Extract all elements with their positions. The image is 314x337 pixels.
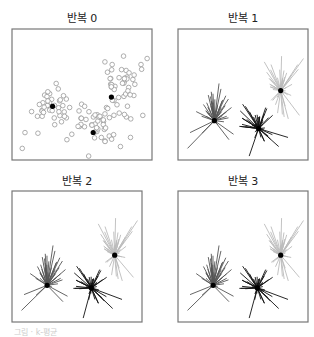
data-point <box>103 139 108 144</box>
data-point <box>108 76 113 81</box>
data-point <box>20 146 25 151</box>
data-point <box>69 132 74 137</box>
data-point <box>105 70 110 75</box>
data-point <box>122 112 127 117</box>
data-point <box>139 67 144 72</box>
data-point <box>36 131 41 136</box>
centroid-marker <box>278 253 283 258</box>
data-point <box>131 77 136 82</box>
data-point <box>52 116 57 121</box>
centroid-marker <box>112 253 117 258</box>
centroid-marker <box>109 95 114 100</box>
centroid-marker <box>89 285 94 290</box>
data-point <box>115 102 120 107</box>
data-point <box>42 105 47 110</box>
panel-2 <box>12 191 142 322</box>
data-point <box>107 115 112 120</box>
data-point <box>57 109 62 114</box>
data-point <box>128 135 133 140</box>
data-point <box>54 81 59 86</box>
data-point <box>62 110 67 115</box>
data-point <box>125 104 130 109</box>
data-point <box>86 154 91 159</box>
data-point <box>122 76 127 81</box>
panel-3 <box>178 191 308 322</box>
centroid-marker <box>211 283 216 288</box>
data-point <box>98 114 103 119</box>
data-point <box>145 56 150 61</box>
data-point <box>37 102 42 107</box>
data-point <box>52 122 57 127</box>
data-point <box>35 114 40 119</box>
centroid-marker <box>256 126 261 131</box>
data-point <box>50 108 55 113</box>
centroid-marker <box>212 118 217 123</box>
centroid-marker <box>45 283 50 288</box>
data-point <box>120 81 125 86</box>
data-point <box>103 126 108 131</box>
data-point <box>128 92 133 97</box>
panel-0 <box>12 29 152 160</box>
data-point <box>118 144 123 149</box>
centroid-marker <box>50 104 55 109</box>
data-point <box>109 84 114 89</box>
data-point <box>128 117 133 122</box>
data-point <box>79 116 84 121</box>
data-point <box>101 118 106 123</box>
data-point <box>61 93 66 98</box>
data-point <box>105 106 110 111</box>
data-point <box>133 82 138 87</box>
data-point <box>58 98 63 103</box>
data-point <box>110 62 115 67</box>
data-point <box>82 104 87 109</box>
data-point <box>111 132 116 137</box>
footer-caption: 그림 · k-평균 <box>14 326 57 337</box>
data-point <box>67 105 72 110</box>
data-point <box>109 67 114 72</box>
data-point <box>117 111 122 116</box>
centroid-marker <box>278 88 283 93</box>
data-point <box>46 89 51 94</box>
data-point <box>41 110 46 115</box>
data-point <box>56 87 61 92</box>
data-point <box>103 60 108 65</box>
data-point <box>62 114 67 119</box>
data-point <box>90 123 95 128</box>
data-point <box>117 75 122 80</box>
data-point <box>109 137 114 142</box>
data-point <box>65 137 70 142</box>
data-point <box>84 117 89 122</box>
data-point <box>99 135 104 140</box>
data-point <box>112 113 117 118</box>
data-point <box>119 67 124 72</box>
data-point <box>139 62 144 67</box>
data-point <box>127 71 132 76</box>
data-point <box>121 54 126 59</box>
data-point <box>94 125 99 130</box>
data-point <box>132 73 137 78</box>
data-point <box>87 109 92 114</box>
data-point <box>59 119 64 124</box>
data-point <box>76 124 81 129</box>
data-point <box>46 99 51 104</box>
panel-1 <box>178 29 308 160</box>
centroid-marker <box>91 130 96 135</box>
data-point <box>92 136 97 141</box>
data-point <box>29 109 34 114</box>
centroid-marker <box>255 285 260 290</box>
data-point <box>103 112 108 117</box>
data-point <box>141 113 146 118</box>
data-point <box>45 94 50 99</box>
data-point <box>116 95 121 100</box>
data-point <box>77 109 82 114</box>
data-point <box>23 130 28 135</box>
